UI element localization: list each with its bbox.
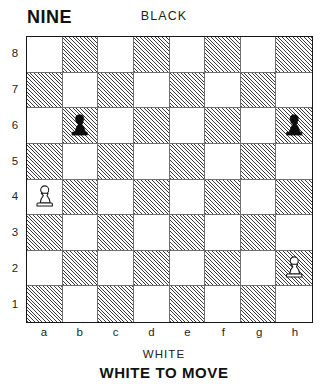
board-square-d6[interactable]: [134, 108, 170, 144]
board-square-g7[interactable]: [241, 73, 277, 109]
black-side-label: BLACK: [0, 9, 328, 23]
board-square-f8[interactable]: [205, 37, 241, 73]
board-square-f2[interactable]: [205, 251, 241, 287]
board-square-e3[interactable]: [170, 215, 206, 251]
rank-label-7: 7: [8, 84, 22, 96]
board-square-a6[interactable]: [27, 108, 63, 144]
board-square-d2[interactable]: [134, 251, 170, 287]
board-square-a3[interactable]: [27, 215, 63, 251]
rank-label-5: 5: [8, 156, 22, 168]
board-square-c6[interactable]: [98, 108, 134, 144]
board-square-c3[interactable]: [98, 215, 134, 251]
chessboard-container: [26, 36, 313, 323]
board-square-b3[interactable]: [63, 215, 99, 251]
board-square-f4[interactable]: [205, 180, 241, 216]
file-label-h: h: [277, 327, 313, 339]
white-pawn-icon[interactable]: [27, 180, 62, 215]
board-square-g1[interactable]: [241, 286, 277, 322]
board-square-f1[interactable]: [205, 286, 241, 322]
white-side-label: WHITE: [0, 348, 328, 360]
board-square-d4[interactable]: [134, 180, 170, 216]
board-square-e4[interactable]: [170, 180, 206, 216]
file-label-a: a: [26, 327, 62, 339]
board-square-b4[interactable]: [63, 180, 99, 216]
board-square-e8[interactable]: [170, 37, 206, 73]
black-pawn-icon[interactable]: [276, 108, 312, 143]
board-square-h4[interactable]: [276, 180, 312, 216]
board-square-h5[interactable]: [276, 144, 312, 180]
rank-label-2: 2: [8, 263, 22, 275]
board-square-e6[interactable]: [170, 108, 206, 144]
board-square-g5[interactable]: [241, 144, 277, 180]
black-pawn-icon[interactable]: [63, 108, 98, 143]
board-square-f3[interactable]: [205, 215, 241, 251]
board-square-e5[interactable]: [170, 144, 206, 180]
rank-label-8: 8: [8, 48, 22, 60]
board-square-d3[interactable]: [134, 215, 170, 251]
board-square-b5[interactable]: [63, 144, 99, 180]
board-square-b7[interactable]: [63, 73, 99, 109]
file-label-g: g: [241, 327, 277, 339]
board-square-f7[interactable]: [205, 73, 241, 109]
board-square-b6[interactable]: [63, 108, 99, 144]
board-square-b1[interactable]: [63, 286, 99, 322]
board-square-c4[interactable]: [98, 180, 134, 216]
board-square-a1[interactable]: [27, 286, 63, 322]
board-square-a5[interactable]: [27, 144, 63, 180]
board-square-d1[interactable]: [134, 286, 170, 322]
board-square-h8[interactable]: [276, 37, 312, 73]
board-square-f5[interactable]: [205, 144, 241, 180]
board-square-d8[interactable]: [134, 37, 170, 73]
rank-label-6: 6: [8, 120, 22, 132]
rank-label-1: 1: [8, 299, 22, 311]
board-square-h7[interactable]: [276, 73, 312, 109]
board-square-d5[interactable]: [134, 144, 170, 180]
board-square-g3[interactable]: [241, 215, 277, 251]
board-square-c2[interactable]: [98, 251, 134, 287]
board-square-e1[interactable]: [170, 286, 206, 322]
board-square-h2[interactable]: [276, 251, 312, 287]
board-square-g8[interactable]: [241, 37, 277, 73]
board-square-g2[interactable]: [241, 251, 277, 287]
board-square-c8[interactable]: [98, 37, 134, 73]
board-square-b8[interactable]: [63, 37, 99, 73]
board-square-d7[interactable]: [134, 73, 170, 109]
rank-label-4: 4: [8, 191, 22, 203]
board-square-a8[interactable]: [27, 37, 63, 73]
board-square-h6[interactable]: [276, 108, 312, 144]
board-square-a7[interactable]: [27, 73, 63, 109]
board-square-c7[interactable]: [98, 73, 134, 109]
board-square-a2[interactable]: [27, 251, 63, 287]
board-square-e7[interactable]: [170, 73, 206, 109]
board-square-a4[interactable]: [27, 180, 63, 216]
board-square-b2[interactable]: [63, 251, 99, 287]
file-label-e: e: [169, 327, 205, 339]
board-square-g4[interactable]: [241, 180, 277, 216]
side-to-move-caption: WHITE TO MOVE: [0, 364, 328, 381]
board-square-g6[interactable]: [241, 108, 277, 144]
file-label-c: c: [98, 327, 134, 339]
file-label-b: b: [62, 327, 98, 339]
file-label-f: f: [205, 327, 241, 339]
board-square-h1[interactable]: [276, 286, 312, 322]
board-square-c5[interactable]: [98, 144, 134, 180]
chessboard[interactable]: [26, 36, 313, 323]
white-pawn-icon[interactable]: [276, 251, 312, 286]
rank-label-3: 3: [8, 227, 22, 239]
board-square-e2[interactable]: [170, 251, 206, 287]
file-label-d: d: [134, 327, 170, 339]
board-square-h3[interactable]: [276, 215, 312, 251]
board-square-f6[interactable]: [205, 108, 241, 144]
board-square-c1[interactable]: [98, 286, 134, 322]
